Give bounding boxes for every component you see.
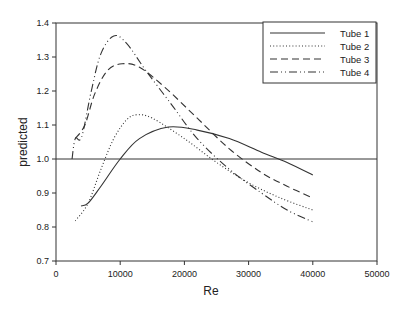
x-tick-label: 10000 — [108, 269, 133, 279]
legend-label: Tube 3 — [340, 54, 369, 65]
y-tick-label: 1.1 — [36, 120, 49, 130]
chart: 010000200003000040000500000.70.80.91.01.… — [0, 0, 405, 310]
x-tick-label: 50000 — [364, 269, 389, 279]
x-tick-label: 0 — [53, 269, 58, 279]
legend-label: Tube 4 — [340, 67, 369, 78]
legend: Tube 1Tube 2Tube 3Tube 4 — [263, 22, 376, 83]
curve-tube-3 — [75, 64, 313, 199]
legend-label: Tube 2 — [340, 41, 369, 52]
curve-tube-2 — [75, 115, 313, 221]
y-tick-label: 0.8 — [36, 222, 49, 232]
x-tick-label: 20000 — [172, 269, 197, 279]
y-tick-label: 0.7 — [36, 256, 49, 266]
y-tick-label: 1.2 — [36, 86, 49, 96]
y-tick-label: 1.3 — [36, 52, 49, 62]
y-tick-label: 0.9 — [36, 188, 49, 198]
x-axis-label: Re — [203, 284, 219, 298]
y-axis-label: predicted — [16, 117, 30, 166]
y-tick-label: 1.4 — [36, 18, 49, 28]
y-tick-label: 1.0 — [36, 154, 49, 164]
x-tick-label: 30000 — [236, 269, 261, 279]
legend-label: Tube 1 — [340, 28, 369, 39]
x-tick-label: 40000 — [300, 269, 325, 279]
